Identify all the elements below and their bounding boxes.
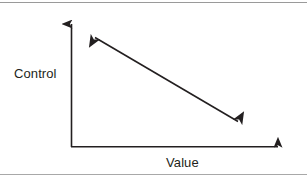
inverse-relationship-arrow bbox=[95, 38, 238, 122]
diagram-canvas: Control Value bbox=[0, 0, 307, 184]
axes-and-arrow-graphic bbox=[0, 0, 307, 184]
x-axis-label: Value bbox=[166, 156, 199, 170]
y-axis-label: Control bbox=[14, 67, 57, 81]
